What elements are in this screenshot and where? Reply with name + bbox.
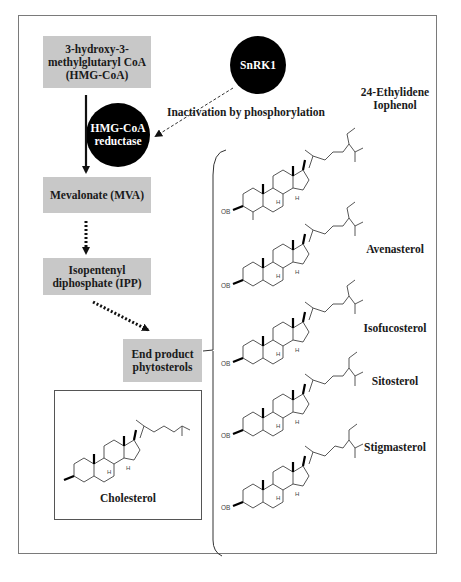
svg-text:OB: OB bbox=[221, 208, 230, 215]
diagram-graphics: H H OB OB OB OB OB bbox=[0, 0, 461, 582]
svg-text:OB: OB bbox=[221, 282, 230, 289]
svg-text:OB: OB bbox=[221, 432, 230, 439]
svg-text:OB: OB bbox=[221, 360, 230, 367]
svg-text:OB: OB bbox=[221, 504, 230, 511]
